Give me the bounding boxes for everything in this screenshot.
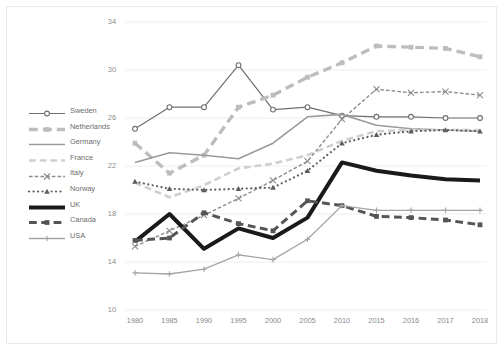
x-axis-tick-label: 1995 (222, 316, 256, 325)
legend-swatch-norway (27, 183, 67, 194)
data-point-marker (271, 107, 276, 112)
data-point-marker (409, 45, 414, 50)
legend-label: Italy (70, 169, 84, 176)
data-point-marker (133, 141, 138, 146)
legend-label: France (70, 154, 93, 161)
data-point-marker (478, 222, 483, 227)
data-point-marker (167, 105, 172, 110)
series-line-norway (135, 130, 480, 190)
data-point-marker (132, 179, 138, 184)
data-point-marker (45, 127, 50, 132)
legend-swatch-netherlands (27, 121, 67, 132)
legend-label: Norway (70, 185, 95, 192)
data-point-marker (271, 93, 276, 98)
data-point-marker (408, 208, 414, 214)
data-point-marker (202, 210, 207, 215)
data-point-marker (443, 208, 449, 214)
x-axis-tick-label: 2016 (394, 316, 428, 325)
data-point-marker (45, 221, 50, 226)
data-point-marker (44, 189, 50, 194)
legend-swatch-germany (27, 136, 67, 147)
data-point-marker (45, 111, 50, 116)
x-axis-tick-label: 1985 (153, 316, 187, 325)
series-line-sweden (135, 65, 480, 129)
y-axis-tick-label: 10 (100, 305, 116, 314)
data-point-marker (374, 114, 379, 119)
y-axis-tick-label: 34 (100, 17, 116, 26)
y-axis-tick-label: 30 (100, 65, 116, 74)
data-point-marker (374, 44, 379, 49)
legend-swatch-italy (27, 168, 67, 179)
data-point-marker (236, 195, 242, 201)
x-axis-tick-label: 2000 (256, 316, 290, 325)
data-point-marker (374, 86, 380, 92)
y-axis-tick-label: 18 (100, 209, 116, 218)
data-point-marker (409, 114, 414, 119)
data-point-marker (305, 158, 311, 164)
data-point-marker (374, 208, 380, 214)
data-point-marker (443, 46, 448, 51)
data-point-marker (374, 214, 379, 219)
y-axis-tick-label: 22 (100, 161, 116, 170)
data-point-marker (478, 54, 483, 59)
data-point-marker (305, 75, 310, 80)
legend-label: Sweden (70, 107, 97, 114)
legend-item-usa[interactable]: USA (27, 228, 122, 244)
series-line-uk (135, 162, 480, 248)
data-point-marker (133, 238, 138, 243)
data-point-marker (132, 270, 138, 276)
legend-label: UK (70, 201, 80, 208)
chart-legend: SwedenNetherlandsGermanyFranceItalyNorwa… (27, 103, 122, 243)
legend-swatch-sweden (27, 105, 67, 116)
legend-label: USA (70, 232, 85, 239)
data-point-marker (340, 60, 345, 65)
data-point-marker (167, 228, 173, 234)
series-line-france (135, 130, 480, 197)
legend-label: Canada (70, 216, 96, 223)
data-point-marker (270, 177, 276, 183)
legend-item-germany[interactable]: Germany (27, 134, 122, 150)
legend-label: Netherlands (70, 123, 110, 130)
x-axis-tick-label: 2018 (463, 316, 497, 325)
legend-swatch-uk (27, 199, 67, 210)
data-point-marker (271, 228, 276, 233)
data-point-marker (44, 236, 50, 242)
y-axis-tick-label: 26 (100, 113, 116, 122)
legend-label: Germany (70, 138, 100, 145)
legend-swatch-usa (27, 230, 67, 241)
data-point-marker (305, 105, 310, 110)
data-point-marker (167, 271, 173, 277)
legend-swatch-france (27, 152, 67, 163)
data-point-marker (201, 266, 207, 272)
data-point-marker (236, 221, 241, 226)
x-axis-tick-label: 1990 (187, 316, 221, 325)
data-point-marker (167, 186, 173, 191)
data-point-marker (236, 252, 242, 258)
x-axis-tick-label: 1980 (118, 316, 152, 325)
data-point-marker (374, 132, 380, 137)
data-point-marker (167, 171, 172, 176)
x-axis-tick-label: 2010 (325, 316, 359, 325)
data-point-marker (236, 105, 241, 110)
y-axis-tick-label: 14 (100, 257, 116, 266)
chart-root: SwedenNetherlandsGermanyFranceItalyNorwa… (0, 0, 504, 351)
x-axis-tick-label: 2005 (291, 316, 325, 325)
x-axis-tick-label: 2015 (360, 316, 394, 325)
data-point-marker (270, 185, 276, 190)
data-point-marker (236, 63, 241, 68)
data-point-marker (305, 198, 310, 203)
data-point-marker (133, 126, 138, 131)
data-point-marker (443, 116, 448, 121)
legend-item-norway[interactable]: Norway (27, 181, 122, 197)
data-point-marker (443, 218, 448, 223)
x-axis-tick-label: 2017 (429, 316, 463, 325)
legend-swatch-canada (27, 214, 67, 225)
data-point-marker (477, 208, 483, 214)
data-point-marker (409, 215, 414, 220)
series-line-canada (135, 201, 480, 241)
data-point-marker (167, 236, 172, 241)
data-point-marker (236, 186, 242, 191)
data-point-marker (132, 243, 138, 249)
data-point-marker (202, 105, 207, 110)
series-line-italy (135, 89, 480, 246)
